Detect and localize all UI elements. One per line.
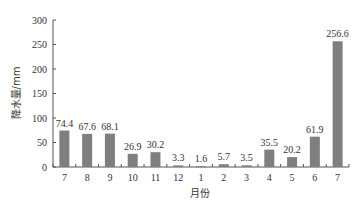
x-tick-label: 3 (244, 172, 249, 183)
precipitation-bar-chart: 050100150200250300 7891011121234567 74.4… (0, 0, 361, 210)
x-tick-label: 5 (290, 172, 295, 183)
bar (219, 164, 229, 167)
bar-value-label: 1.6 (195, 153, 208, 164)
bar (333, 41, 343, 167)
bar-value-label: 68.1 (101, 121, 119, 132)
x-tick-label: 9 (107, 172, 112, 183)
x-tick-label: 2 (221, 172, 226, 183)
x-tick-label: 8 (85, 172, 90, 183)
bar-value-label: 3.3 (172, 152, 185, 163)
bar-value-label: 26.9 (124, 141, 142, 152)
bar-value-label: 256.6 (326, 28, 349, 39)
bar (105, 134, 115, 167)
x-tick-label: 10 (128, 172, 138, 183)
bar (150, 152, 160, 167)
bar (310, 137, 320, 167)
y-axis: 050100150200250300 (32, 15, 56, 173)
bar-value-label: 74.4 (56, 118, 74, 129)
x-tick-label: 1 (199, 172, 204, 183)
bar (59, 131, 69, 167)
bar-value-label: 35.5 (261, 137, 279, 148)
x-axis-title: 月份 (190, 188, 210, 199)
x-tick-label: 12 (173, 172, 183, 183)
bar-value-label: 3.5 (240, 152, 253, 163)
y-tick-label: 0 (42, 162, 47, 173)
bar (264, 150, 274, 167)
bar (128, 154, 138, 167)
bar-value-label: 67.6 (78, 121, 96, 132)
bar (242, 165, 252, 167)
x-tick-label: 4 (267, 172, 272, 183)
bar (287, 157, 297, 167)
bar (173, 165, 183, 167)
x-tick-label: 11 (151, 172, 161, 183)
y-axis-title: 降水量/mm (10, 67, 22, 120)
bar (82, 134, 92, 167)
x-tick-label: 6 (312, 172, 317, 183)
y-tick-label: 250 (32, 39, 47, 50)
bar (196, 166, 206, 167)
y-tick-label: 200 (32, 64, 47, 75)
bar-value-label: 61.9 (306, 124, 324, 135)
bar-value-label: 30.2 (147, 139, 165, 150)
y-tick-label: 300 (32, 15, 47, 26)
y-tick-label: 100 (32, 113, 47, 124)
y-tick-label: 150 (32, 88, 47, 99)
bars: 74.467.668.126.930.23.31.65.73.535.520.2… (56, 28, 349, 167)
x-tick-label: 7 (62, 172, 67, 183)
bar-value-label: 20.2 (283, 144, 301, 155)
bar-value-label: 5.7 (218, 151, 231, 162)
y-tick-label: 50 (37, 137, 47, 148)
x-tick-label: 7 (335, 172, 340, 183)
